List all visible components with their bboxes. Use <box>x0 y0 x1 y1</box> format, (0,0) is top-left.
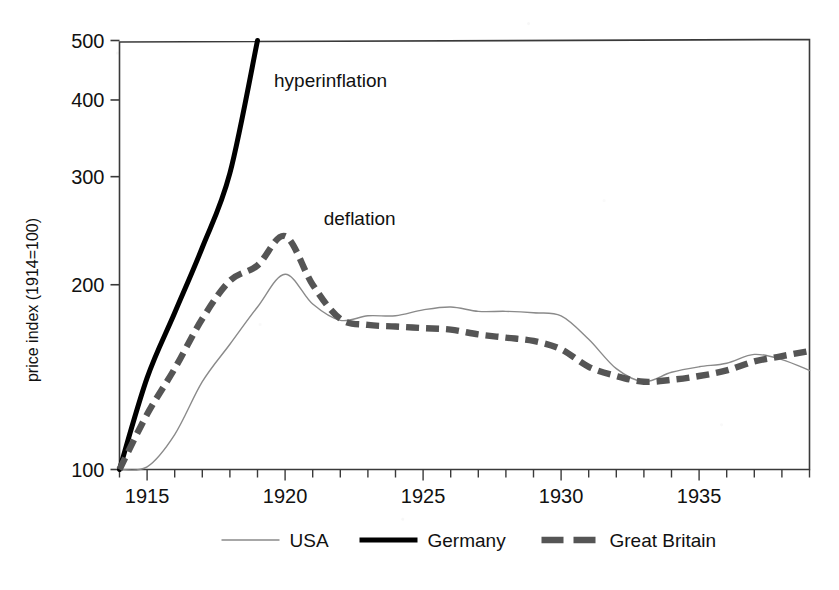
y-tick-label-100: 100 <box>71 459 104 481</box>
x-tick-label-1925: 1925 <box>401 485 446 507</box>
y-tick-label-300: 300 <box>71 166 104 188</box>
x-tick-label-1920: 1920 <box>263 485 308 507</box>
legend-label-great-britain: Great Britain <box>610 530 717 551</box>
plot-frame-box <box>120 40 810 470</box>
annotation-hyperinflation: hyperinflation <box>274 70 387 91</box>
chart-figure: 500 400 300 200 100 price index (1914=10… <box>0 0 839 590</box>
y-axis-tick-labels: 500 400 300 200 100 <box>71 30 104 481</box>
legend-item-great-britain: Great Britain <box>542 530 717 551</box>
y-tick-label-200: 200 <box>71 274 104 296</box>
x-tick-label-1930: 1930 <box>539 485 584 507</box>
y-axis-ticks <box>111 41 120 470</box>
series-line-germany <box>120 41 258 470</box>
y-tick-label-500: 500 <box>71 30 104 52</box>
legend-item-usa: USA <box>222 530 329 551</box>
legend-label-germany: Germany <box>428 530 507 551</box>
legend-label-usa: USA <box>290 530 329 551</box>
chart-legend: USA Germany Great Britain <box>222 530 717 551</box>
legend-item-germany: Germany <box>360 530 507 551</box>
x-tick-label-1915: 1915 <box>125 485 170 507</box>
x-axis-ticks <box>120 470 810 481</box>
plot-frame <box>120 40 810 470</box>
price-index-line-chart: 500 400 300 200 100 price index (1914=10… <box>0 0 839 590</box>
x-tick-label-1935: 1935 <box>677 485 722 507</box>
y-tick-label-400: 400 <box>71 89 104 111</box>
y-axis-title: price index (1914=100) <box>24 218 41 382</box>
data-series-group <box>120 41 810 471</box>
x-axis-tick-labels: 1915 1920 1925 1930 1935 <box>125 485 722 507</box>
annotation-deflation: deflation <box>324 208 396 229</box>
